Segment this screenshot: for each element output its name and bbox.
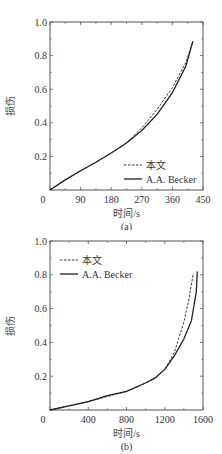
legend-label: 本文 [82,254,102,266]
x-tick-label: 270 [134,194,149,205]
series-line-dashed [50,41,193,190]
legend: 本文A.A. Becker [124,159,197,185]
x-tick-label: 0 [41,414,46,425]
y-axis-label: 损伤 [4,316,16,336]
chart-a: 0901802703604500.20.40.60.81.0时间/s损伤(a)本… [0,0,222,230]
x-tick-label: 0 [41,194,46,205]
y-tick-label: 0.8 [35,50,48,61]
y-tick-label: 0.2 [35,371,48,382]
x-tick-label: 450 [196,194,211,205]
plot-frame [50,241,203,410]
y-tick-label: 0.8 [35,269,48,280]
y-tick-label: 0.4 [35,117,48,128]
y-axis-label: 损伤 [4,96,16,116]
y-tick-label: 0.2 [35,151,48,162]
legend-label: 本文 [146,159,166,171]
series-line-solid [50,41,193,190]
chart-b: 0400800120016000.20.40.60.81.0时间/s损伤(b)本… [0,230,222,454]
panel-caption: (a) [121,221,132,230]
x-tick-label: 180 [104,194,119,205]
x-axis-label: 时间/s [113,207,140,219]
y-tick-label: 0.6 [35,303,48,314]
x-axis-label: 时间/s [113,427,140,439]
legend: 本文A.A. Becker [60,254,133,280]
legend-label: A.A. Becker [82,269,133,280]
y-tick-label: 1.0 [35,236,48,247]
y-tick-label: 0.6 [35,84,48,95]
y-tick-label: 0.4 [35,337,48,348]
x-tick-label: 360 [165,194,180,205]
x-tick-label: 1600 [193,414,213,425]
x-tick-label: 90 [76,194,86,205]
x-tick-label: 400 [81,414,96,425]
legend-label: A.A. Becker [146,174,197,185]
panel-caption: (b) [121,441,133,453]
series-line-solid [50,271,197,410]
y-tick-label: 1.0 [35,17,48,28]
x-tick-label: 1200 [155,414,175,425]
series-line-dashed [50,273,193,410]
x-tick-label: 800 [119,414,134,425]
